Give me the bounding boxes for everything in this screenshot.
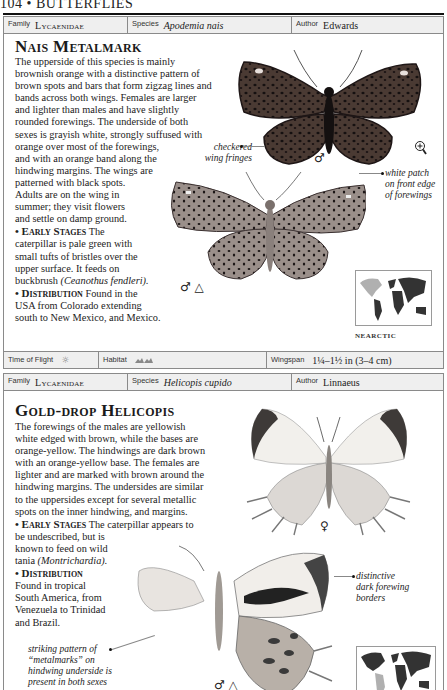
description-line: sexes is grayish white, strongly suffuse… (15, 129, 240, 141)
early-stages-text: buckbrush (15, 275, 60, 286)
food-plant-name: (Montrichardia). (38, 555, 108, 566)
species-entry-nais-metalmark: Family Lycaenidae Species Apodemia nais … (3, 16, 444, 369)
description-line: spots on the inner hindwing, and margins… (15, 506, 245, 518)
wingspan-cell: Wingspan 1¼–1½ in (3–4 cm) (267, 352, 443, 368)
entry-body: Nais Metalmark The upperside of this spe… (4, 34, 443, 351)
author-label: Author (296, 19, 318, 28)
description-line: lighter and are marked with brown around… (15, 469, 245, 481)
wingspan-label: Wingspan (271, 355, 304, 364)
early-stages-heading: • Early Stages (15, 225, 86, 237)
distribution-text: USA from Colorado extending (15, 300, 240, 312)
header-rule (3, 13, 444, 15)
species-title: Gold-drop Helicopis (15, 401, 174, 421)
leader-dot (381, 172, 384, 175)
author-value: Linnaeus (323, 377, 360, 388)
description-line: to the uppersides except for several met… (15, 494, 245, 506)
annotation-metalmarks: striking pattern of “metalmarks” on hind… (28, 644, 128, 688)
family-label: Family (8, 376, 30, 385)
entry-footer-bar: Time of Flight ☼ Habitat Wingspan 1¼–1½ … (4, 351, 443, 368)
family-label: Family (8, 19, 30, 28)
world-map-icon (357, 647, 435, 690)
distribution-heading: • Distribution (15, 567, 83, 579)
description-line: with an orange-yellow base. The females … (15, 457, 245, 469)
early-stages-text: The caterpillar appears to (86, 519, 193, 530)
habitat-cell: Habitat (99, 352, 267, 368)
male-symbol: ♂ (314, 151, 325, 165)
annotation-line: “metalmarks” on (28, 655, 128, 666)
butterfly-underside-illustration (166, 167, 366, 292)
annotation-line: present in both sexes (28, 677, 128, 688)
author-cell: Author Linnaeus (292, 374, 443, 390)
butterfly-female-illustration (242, 397, 417, 537)
description-line: and lighter than males and have slightly (15, 104, 240, 116)
annotation-line: wing fringes (200, 153, 252, 164)
entry-meta-bar: Family Lycaenidae Species Apodemia nais … (4, 17, 443, 34)
author-value: Edwards (323, 20, 358, 31)
annotation-line: white patch (385, 168, 445, 179)
species-value: Helicopis cupido (164, 377, 232, 388)
sun-icon: ☼ (61, 355, 69, 365)
leader-dot (352, 575, 355, 578)
description-line: The forewings of the males are yellowish (15, 421, 245, 433)
species-title: Nais Metalmark (15, 37, 142, 57)
distribution-text: south to New Mexico, and Mexico. (15, 312, 240, 324)
mountains-habitat-icon (135, 356, 153, 364)
time-of-flight-cell: Time of Flight ☼ (4, 352, 99, 368)
description-line: bands across both wings. Females are lar… (15, 92, 240, 104)
family-value: Lycaenidae (35, 20, 84, 31)
leader-line (334, 576, 352, 577)
family-cell: Family Lycaenidae (4, 374, 128, 390)
page-header: 104 • BUTTERFLIES (0, 0, 133, 12)
description-line: brownish orange with a distinctive patte… (15, 68, 240, 80)
early-stages-text: tania (15, 555, 38, 566)
description-line: white edged with brown, while the bases … (15, 433, 245, 445)
family-cell: Family Lycaenidae (4, 17, 128, 33)
description-line: orange-yellow. The hindwings are dark br… (15, 445, 245, 457)
wingspan-value: 1¼–1½ in (3–4 cm) (312, 355, 391, 366)
annotation-line: hindwing underside is (28, 666, 128, 677)
habitat-label: Habitat (103, 355, 127, 364)
species-entry-gold-drop-helicopis: Family Lycaenidae Species Helicopis cupi… (3, 373, 444, 690)
annotation-white-patch: white patch on front edge of forewings (385, 168, 445, 201)
early-stages-text: The (86, 226, 104, 237)
map-region-label: NEARCTIC (355, 332, 396, 340)
butterfly-male-underside-illustration (134, 541, 334, 690)
food-plant-name: (Ceanothus fendleri). (60, 275, 148, 286)
female-symbol: ♀ (320, 519, 329, 533)
species-label: Species (132, 376, 159, 385)
entry-meta-bar: Family Lycaenidae Species Helicopis cupi… (4, 374, 443, 391)
male-symbol-and-triangle: ♂ △ (214, 678, 238, 690)
author-cell: Author Edwards (292, 17, 443, 33)
species-cell: Species Apodemia nais (128, 17, 292, 33)
entry-body: Gold-drop Helicopis The forewings of the… (4, 391, 443, 690)
time-of-flight-label: Time of Flight (8, 355, 53, 364)
distribution-text: Found in the (83, 288, 138, 299)
early-stages-section: • Early Stages The caterpillar appears t… (15, 518, 245, 531)
butterfly-upperside-illustration (234, 42, 434, 167)
world-map-icon (356, 271, 431, 325)
annotation-line: of forewings (385, 190, 445, 201)
description-line: brown spots and bars that form zigzag li… (15, 80, 240, 92)
annotation-line: distinctive (356, 571, 426, 582)
annotation-line: checkered (200, 142, 252, 153)
species-value: Apodemia nais (164, 20, 224, 31)
annotation-line: dark forewing (356, 582, 426, 593)
range-map-neotropical (356, 646, 436, 690)
species-cell: Species Helicopis cupido (128, 374, 292, 390)
description-line: rounded forewings. The underside of both (15, 116, 240, 128)
male-symbol-and-triangle: ♂ △ (180, 280, 204, 294)
description-line: hindwing margins. The undersides are sim… (15, 481, 245, 493)
species-label: Species (132, 19, 159, 28)
annotation-line: borders (356, 593, 426, 604)
family-value: Lycaenidae (35, 377, 84, 388)
magnify-icon (414, 140, 428, 156)
range-map-nearctic (355, 270, 432, 326)
early-stages-heading: • Early Stages (15, 518, 86, 530)
annotation-line: on front edge (385, 179, 445, 190)
distribution-heading: • Distribution (15, 287, 83, 299)
leader-line (243, 146, 265, 147)
author-label: Author (296, 376, 318, 385)
leader-line (359, 173, 381, 174)
description-line: The upperside of this species is mainly (15, 56, 240, 68)
annotation-dark-forewing-borders: distinctive dark forewing borders (356, 571, 426, 604)
